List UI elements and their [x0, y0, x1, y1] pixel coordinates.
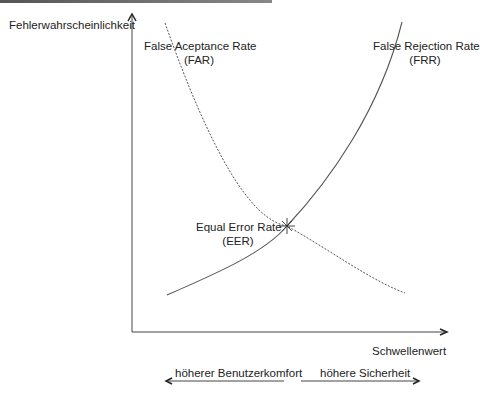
- eer-label: Equal Error Rate (EER): [196, 220, 280, 248]
- x-axis-label: Schwellenwert: [372, 344, 446, 358]
- left-arrow-label: höherer Benutzerkomfort: [175, 366, 302, 380]
- y-axis-label: Fehlerwahrscheinlichkeit: [9, 18, 135, 32]
- far-label-line2: (FAR): [144, 53, 254, 67]
- frr-label: False Rejection Rate (FRR): [373, 39, 477, 67]
- frr-label-line2: (FRR): [373, 53, 477, 67]
- right-arrow-label: höhere Sicherheit: [320, 366, 410, 380]
- eer-label-line2: (EER): [196, 234, 280, 248]
- frr-label-line1: False Rejection Rate: [373, 39, 477, 53]
- far-label: False Aceptance Rate (FAR): [144, 39, 254, 67]
- eer-label-line1: Equal Error Rate: [196, 220, 280, 234]
- far-label-line1: False Aceptance Rate: [144, 39, 254, 53]
